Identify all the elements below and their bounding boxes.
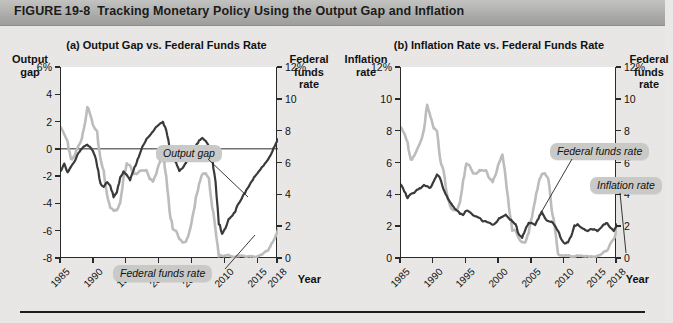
x-tick	[596, 258, 597, 263]
x-tick-label: 1990	[76, 266, 105, 295]
y-tick-left	[395, 225, 400, 226]
y-tick-label-right: 10	[285, 93, 297, 105]
callout-leader-line	[156, 145, 157, 146]
panel-inflation-rate: (b) Inflation Rate vs. Federal Funds Rat…	[333, 25, 665, 311]
callout-leader-line	[590, 177, 591, 178]
y-tick-label-left: 0	[18, 143, 52, 155]
y-tick-left	[395, 162, 400, 163]
y-tick-label-left: 8	[358, 125, 392, 137]
y-tick-right	[616, 257, 621, 258]
y-tick-label-right: 12%	[285, 61, 306, 73]
figure-title-text: Tracking Monetary Policy Using the Outpu…	[97, 4, 464, 18]
y-tick-left	[55, 148, 60, 149]
y-tick-label-right: 0	[285, 252, 291, 264]
figure-number: 19-8	[65, 4, 90, 18]
x-tick	[615, 258, 616, 263]
x-tick-label: 2005	[514, 266, 543, 295]
y-tick-right	[277, 130, 282, 131]
x-tick	[276, 258, 277, 263]
y-tick-left	[55, 175, 60, 176]
series-callout-inflation-rate: Inflation rate	[590, 177, 662, 194]
figure-bottom-rule	[20, 311, 645, 313]
x-tick	[59, 258, 60, 263]
y-tick-label-right: 8	[624, 125, 630, 137]
x-tick-label: 2000	[481, 266, 510, 295]
y-tick-right	[616, 130, 621, 131]
x-tick	[92, 258, 93, 263]
y-tick-label-right: 12%	[624, 61, 645, 73]
y-tick-label-right: 6	[285, 157, 291, 169]
y-tick-right	[616, 225, 621, 226]
y-tick-label-left: 6	[358, 157, 392, 169]
y-tick-right	[616, 66, 621, 67]
y-tick-label-left: 2	[358, 220, 392, 232]
y-tick-right	[277, 194, 282, 195]
y-tick-left	[55, 230, 60, 231]
y-tick-left	[395, 98, 400, 99]
panel-a-plot-area	[60, 67, 277, 258]
axis-heading-line: rate	[281, 78, 337, 91]
figure-label: FIGURE	[14, 4, 62, 18]
x-tick	[191, 258, 192, 263]
series-canvas	[61, 67, 278, 258]
x-tick	[257, 258, 258, 263]
figure-title-bar: FIGURE19-8Tracking Monetary Policy Using…	[0, 0, 665, 26]
x-tick	[125, 258, 126, 263]
panel-b-title: (b) Inflation Rate vs. Federal Funds Rat…	[333, 39, 665, 51]
y-tick-label-right: 10	[624, 93, 636, 105]
series-callout-federal-funds-rate: Federal funds rate	[550, 143, 649, 160]
y-tick-left	[395, 66, 400, 67]
y-tick-label-left: -8	[18, 252, 52, 264]
x-tick	[224, 258, 225, 263]
y-tick-label-right: 0	[624, 252, 630, 264]
y-tick-right	[277, 225, 282, 226]
panel-b-plot-area	[400, 67, 616, 258]
y-tick-label-left: 6%	[18, 61, 52, 73]
y-tick-label-left: 2	[18, 116, 52, 128]
x-tick	[497, 258, 498, 263]
x-tick	[465, 258, 466, 263]
series-callout-federal-funds-rate: Federal funds rate	[113, 265, 212, 282]
x-tick	[530, 258, 531, 263]
y-tick-label-right: 8	[285, 125, 291, 137]
y-tick-left	[55, 203, 60, 204]
y-tick-label-left: 4	[358, 188, 392, 200]
y-tick-right	[277, 66, 282, 67]
panel-b-x-axis-title: Year	[626, 273, 649, 285]
y-tick-right	[277, 162, 282, 163]
y-tick-label-left: -6	[18, 225, 52, 237]
y-tick-label-right: 4	[285, 188, 291, 200]
series-canvas	[401, 67, 617, 258]
y-tick-label-left: 4	[18, 88, 52, 100]
axis-heading-line: rate	[621, 78, 673, 91]
y-tick-label-right: 2	[624, 220, 630, 232]
y-tick-label-left: 10	[358, 93, 392, 105]
panel-output-gap: (a) Output Gap vs. Federal Funds Rate Ou…	[0, 25, 333, 311]
callout-leader-line	[550, 143, 551, 144]
x-tick	[399, 258, 400, 263]
figure-title: FIGURE19-8Tracking Monetary Policy Using…	[14, 4, 464, 18]
x-tick-label: 2010	[546, 266, 575, 295]
y-tick-right	[616, 162, 621, 163]
y-tick-label-left: -2	[18, 170, 52, 182]
panel-a-x-axis-title: Year	[298, 273, 321, 285]
y-tick-left	[395, 194, 400, 195]
y-tick-left	[55, 94, 60, 95]
x-tick	[563, 258, 564, 263]
callout-leader-line	[113, 265, 114, 266]
y-tick-left	[55, 66, 60, 67]
y-tick-left	[55, 121, 60, 122]
x-tick-label: 1985	[43, 266, 72, 295]
y-tick-right	[277, 98, 282, 99]
y-tick-label-right: 2	[285, 220, 291, 232]
x-tick-label: 1985	[383, 266, 412, 295]
x-tick-label: 1990	[416, 266, 445, 295]
y-tick-right	[616, 98, 621, 99]
y-tick-label-left: 12%	[358, 61, 392, 73]
y-tick-right	[277, 257, 282, 258]
x-tick	[432, 258, 433, 263]
series-line-federal-funds-rate	[61, 107, 278, 257]
panel-a-title: (a) Output Gap vs. Federal Funds Rate	[0, 39, 333, 51]
y-tick-label-left: -4	[18, 197, 52, 209]
